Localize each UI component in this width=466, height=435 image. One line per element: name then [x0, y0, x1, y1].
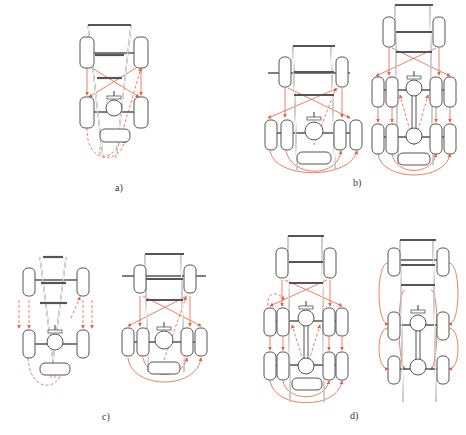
tire: [265, 120, 277, 150]
driveshaft-flange: [157, 327, 171, 330]
tire-rotation-diagram: [0, 0, 466, 435]
tire: [23, 330, 35, 358]
tire: [336, 308, 348, 336]
tire: [279, 57, 291, 87]
tire: [388, 248, 400, 276]
tire: [323, 308, 335, 336]
label-c: c): [102, 411, 110, 422]
frame-rail-inner: [331, 46, 335, 170]
chassis-diagram-d2: [379, 240, 458, 402]
tire: [336, 352, 348, 380]
tire: [437, 356, 449, 384]
tire: [134, 265, 146, 293]
tire: [386, 77, 398, 107]
chassis-diagram-c1: [19, 257, 92, 385]
differential: [305, 122, 323, 140]
differential: [406, 80, 422, 96]
driveshaft-flange: [407, 76, 421, 79]
tire: [444, 77, 456, 107]
tire: [23, 268, 35, 296]
tire: [372, 124, 384, 154]
tire: [323, 352, 335, 380]
differential: [106, 100, 122, 116]
chassis-diagram-b2: [372, 5, 456, 175]
spare-tire: [148, 362, 180, 374]
tire: [276, 248, 288, 278]
rotation-arrow: [71, 297, 80, 318]
tire: [372, 77, 384, 107]
tire: [336, 57, 348, 87]
tire: [437, 312, 449, 340]
tire: [350, 120, 362, 150]
tire: [444, 124, 456, 154]
frame-rail-inner: [293, 46, 297, 170]
rotation-arrow: [449, 328, 458, 369]
chassis-diagram-a: [80, 25, 148, 158]
differential: [410, 359, 426, 375]
driveshaft-flange: [48, 330, 62, 333]
rotation-arrow: [92, 68, 139, 97]
tire: [430, 77, 442, 107]
spare-tire: [297, 152, 331, 164]
rotation-arrow: [288, 88, 350, 118]
tire: [277, 352, 289, 380]
rotation-arrow: [379, 263, 388, 324]
label-b: b): [353, 177, 361, 188]
tire: [184, 265, 196, 293]
tire: [77, 268, 89, 296]
tire: [388, 356, 400, 384]
tire: [433, 17, 445, 47]
tire: [264, 308, 276, 336]
rotation-arrow: [268, 88, 338, 118]
tire: [134, 37, 148, 68]
spare-tire: [398, 153, 430, 165]
tire: [437, 248, 449, 276]
driveshaft-flange: [411, 310, 425, 313]
tire: [80, 97, 94, 128]
tire: [181, 328, 193, 356]
frame-rail-inner: [51, 257, 66, 378]
spare-tire: [292, 378, 322, 390]
label-d: d): [350, 410, 358, 421]
spare-tire: [100, 129, 130, 142]
tire: [80, 37, 94, 68]
tire: [122, 328, 134, 356]
differential: [298, 310, 314, 326]
differential: [410, 315, 426, 331]
chassis-diagram-c2: [122, 254, 207, 382]
tire: [277, 308, 289, 336]
differential: [155, 331, 173, 349]
differential: [47, 334, 63, 350]
driveshaft-flange: [107, 96, 121, 99]
tire: [281, 120, 293, 150]
tire: [386, 124, 398, 154]
rotation-arrow: [379, 328, 388, 369]
tire: [388, 312, 400, 340]
rotation-arrow: [449, 263, 458, 324]
differential: [298, 358, 314, 374]
tire: [77, 330, 89, 358]
tire: [134, 97, 148, 128]
spare-tire: [40, 363, 70, 375]
tire: [324, 248, 336, 278]
tire: [137, 328, 149, 356]
tire: [264, 352, 276, 380]
tire: [430, 124, 442, 154]
driveshaft-flange: [307, 117, 321, 120]
differential: [406, 128, 422, 144]
chassis-diagram-d1: [264, 236, 348, 403]
label-a: a): [115, 182, 123, 193]
chassis-diagram-b1: [265, 46, 362, 173]
tire: [195, 328, 207, 356]
tire: [383, 17, 395, 47]
tire: [334, 120, 346, 150]
rotation-arrow: [268, 294, 284, 306]
driveshaft-flange: [299, 306, 313, 309]
